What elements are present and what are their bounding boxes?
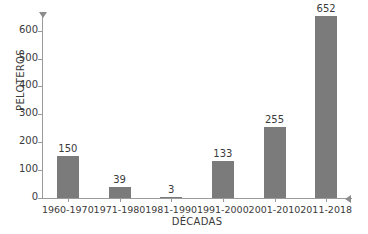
x-axis-tick-mark — [275, 198, 276, 202]
bar-item: 652 — [315, 14, 337, 198]
bar-chart: PELOTEROS 0100200300400500600 1960-19701… — [0, 0, 368, 234]
bar — [109, 187, 131, 198]
bar-value-label: 39 — [113, 174, 126, 185]
x-axis-title: DÉCADAS — [42, 216, 352, 227]
y-axis-tick-label: 0 — [32, 191, 38, 202]
bar — [212, 161, 234, 198]
y-axis-tick-mark — [38, 198, 42, 199]
y-axis-tick-mark — [38, 59, 42, 60]
x-axis-tick-mark — [120, 198, 121, 202]
y-axis-tick-label: 600 — [19, 24, 38, 35]
x-axis-tick-label: 1991-2000 — [197, 204, 249, 215]
x-axis-tick-mark — [326, 198, 327, 202]
bar — [160, 197, 182, 198]
y-axis-tick-label: 200 — [19, 135, 38, 146]
y-axis-tick-label: 100 — [19, 163, 38, 174]
x-axis-tick-label: 1971-1980 — [94, 204, 146, 215]
x-axis-tick-label: 2011-2018 — [300, 204, 352, 215]
bar-item: 133 — [212, 14, 234, 198]
x-axis-line — [42, 198, 352, 199]
bar-item: 255 — [264, 14, 286, 198]
y-axis-line — [42, 14, 43, 198]
y-axis-tick-label: 500 — [19, 52, 38, 63]
x-axis-arrow-icon — [345, 195, 351, 203]
bar — [315, 16, 337, 198]
bar-value-label: 652 — [317, 3, 336, 14]
y-axis-tick-label: 300 — [19, 107, 38, 118]
x-axis-tick-label: 1960-1970 — [42, 204, 94, 215]
y-axis-tick-mark — [38, 86, 42, 87]
y-axis-tick-mark — [38, 114, 42, 115]
bar — [264, 127, 286, 198]
bar-value-label: 133 — [213, 148, 232, 159]
x-axis-tick-mark — [223, 198, 224, 202]
bar-item: 39 — [109, 14, 131, 198]
bar-item: 150 — [57, 14, 79, 198]
y-axis-tick-mark — [38, 142, 42, 143]
plot-area: 0100200300400500600 1960-19701971-198019… — [42, 14, 352, 198]
bar-value-label: 255 — [265, 114, 284, 125]
x-axis-tick-label: 2001-2010 — [249, 204, 301, 215]
bar-value-label: 150 — [58, 143, 77, 154]
bar-item: 3 — [160, 14, 182, 198]
y-axis-tick-mark — [38, 170, 42, 171]
y-axis-tick-mark — [38, 31, 42, 32]
x-axis-tick-mark — [171, 198, 172, 202]
bar-value-label: 3 — [168, 184, 174, 195]
bar — [57, 156, 79, 198]
x-axis-tick-mark — [68, 198, 69, 202]
x-axis-tick-label: 1981-1990 — [145, 204, 197, 215]
y-axis-tick-label: 400 — [19, 79, 38, 90]
y-axis-arrow-icon — [39, 12, 47, 18]
